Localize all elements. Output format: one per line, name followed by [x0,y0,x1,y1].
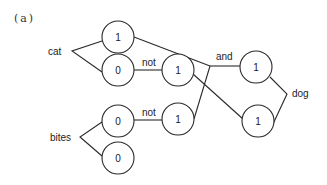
label-and: and [216,51,233,62]
notbites-to-and-edge [194,66,210,119]
figure-caption: (a) [14,12,35,25]
node-not-bites: 1 [162,103,194,135]
svg-text:0: 0 [115,153,121,164]
svg-text:1: 1 [115,32,121,43]
svg-text:0: 0 [115,65,121,76]
label-cat: cat [48,46,62,57]
node-cat-0: 0 [102,54,134,86]
svg-text:0: 0 [115,116,121,127]
svg-text:1: 1 [255,116,261,127]
svg-text:1: 1 [175,65,181,76]
node-not-cat: 1 [162,54,194,86]
node-lower-right: 1 [242,105,274,137]
node-cat-1: 1 [102,21,134,53]
label-not-top: not [142,57,156,68]
label-not-bottom: not [142,107,156,118]
node-bites-0-top: 0 [102,105,134,137]
svg-text:1: 1 [253,62,259,73]
label-bites: bites [50,132,71,143]
cat-fork-edge [72,41,102,72]
svg-text:1: 1 [175,114,181,125]
node-bites-0-bottom: 0 [102,142,134,174]
bites-fork-edge [80,122,102,156]
node-and: 1 [240,51,272,83]
label-dog: dog [292,88,309,99]
neural-network-diagram: (a) cat bites not not and dog 1 0 1 [0,0,327,185]
